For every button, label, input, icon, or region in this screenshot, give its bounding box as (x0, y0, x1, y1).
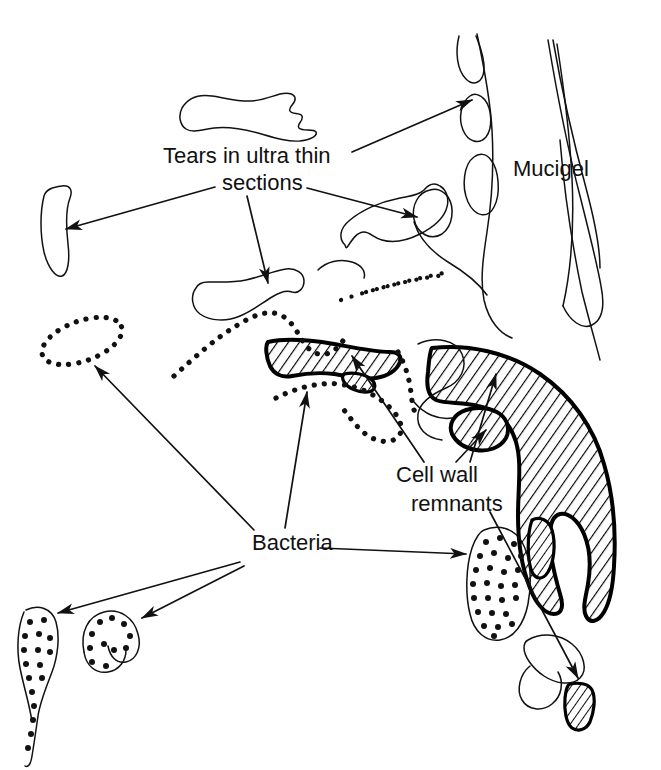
cell-wall-remnant-bottom-wedge (565, 683, 594, 730)
label-cell-wall-line2: remnants (411, 491, 503, 516)
label-bacteria: Bacteria (252, 530, 333, 555)
label-cell-wall-line1: Cell wall (396, 462, 478, 487)
micrograph-tracing-svg: Tears in ultra thin sections Mucigel Cel… (0, 0, 661, 770)
figure-canvas: Tears in ultra thin sections Mucigel Cel… (0, 0, 661, 770)
cell-wall-remnant-upper-sliver (528, 518, 554, 578)
label-tears-line1: Tears in ultra thin (163, 143, 331, 168)
label-mucigel: Mucigel (513, 156, 589, 181)
label-tears-line2: sections (222, 170, 303, 195)
